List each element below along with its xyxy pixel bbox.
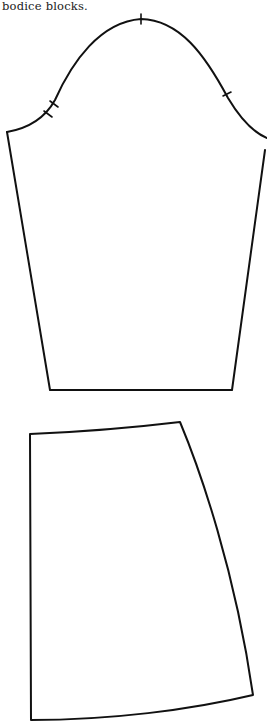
skirt-block bbox=[30, 422, 253, 720]
sleeve-block bbox=[7, 14, 267, 390]
pattern-drawing bbox=[0, 0, 267, 723]
